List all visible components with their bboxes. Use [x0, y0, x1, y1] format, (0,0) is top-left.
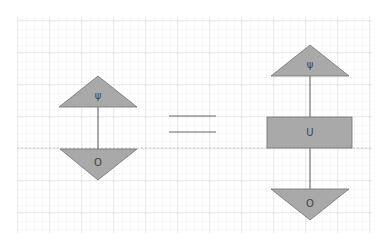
left-psi-label: ψ: [95, 90, 102, 101]
right-diagram: ψ U O: [267, 45, 352, 220]
left-o-label: O: [94, 157, 102, 168]
right-psi-label: ψ: [307, 59, 314, 70]
right-u-label: U: [306, 127, 313, 138]
right-o-label: O: [306, 198, 314, 209]
diagram-canvas: ψ O ψ U O: [0, 0, 389, 243]
